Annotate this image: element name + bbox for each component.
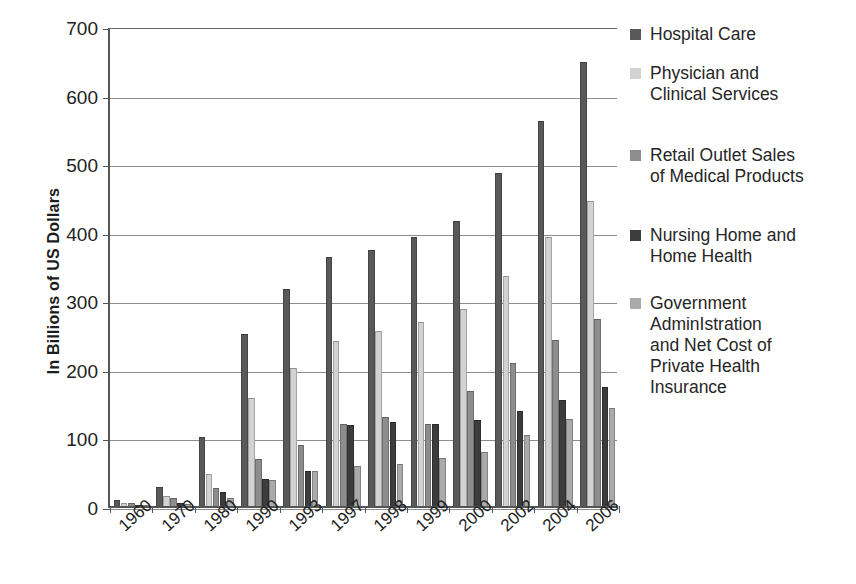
bar	[333, 341, 340, 506]
bar	[545, 237, 552, 506]
y-tick-mark	[103, 98, 110, 99]
chart-legend: Hospital CarePhysician and Clinical Serv…	[630, 24, 856, 398]
legend-item-label: Hospital Care	[650, 24, 756, 45]
legend-square-icon	[630, 29, 641, 40]
legend-square-icon	[630, 298, 641, 309]
bar	[326, 257, 333, 506]
legend-square-icon	[630, 150, 641, 161]
legend-item-label: Nursing Home and Home Health	[650, 225, 796, 267]
legend-item[interactable]: Government AdminIstration and Net Cost o…	[630, 293, 856, 398]
bar	[255, 459, 262, 506]
x-tick-mark	[152, 506, 153, 513]
x-tick-mark	[407, 506, 408, 513]
bar	[538, 121, 545, 506]
bar	[580, 62, 587, 506]
y-tick-label: 100	[40, 429, 98, 451]
y-tick-label: 600	[40, 87, 98, 109]
bar	[382, 417, 389, 506]
bar	[467, 391, 474, 506]
bar	[121, 503, 128, 506]
bar	[368, 250, 375, 506]
bar-group	[492, 29, 534, 506]
x-tick-mark	[110, 506, 111, 513]
bar	[290, 368, 297, 506]
bar-group	[534, 29, 576, 506]
bar	[453, 221, 460, 506]
y-tick-label: 700	[40, 18, 98, 40]
bar	[390, 422, 397, 506]
bar	[594, 319, 601, 506]
bar-group	[195, 29, 237, 506]
y-tick-mark	[103, 303, 110, 304]
bar-group	[365, 29, 407, 506]
bar	[114, 500, 121, 506]
bar-group	[577, 29, 619, 506]
bar-group	[280, 29, 322, 506]
bar-group	[407, 29, 449, 506]
y-tick-label: 300	[40, 292, 98, 314]
bar	[411, 237, 418, 506]
y-tick-label: 500	[40, 155, 98, 177]
bar	[432, 424, 439, 506]
bar	[163, 496, 170, 506]
x-tick-mark	[280, 506, 281, 513]
bar	[510, 363, 517, 506]
legend-item[interactable]: Retail Outlet Sales of Medical Products	[630, 145, 856, 187]
y-tick-mark	[103, 509, 110, 510]
y-tick-mark	[103, 235, 110, 236]
bar	[517, 411, 524, 506]
x-tick-mark	[449, 506, 450, 513]
bar-group	[110, 29, 152, 506]
x-tick-mark	[365, 506, 366, 513]
bar-group	[322, 29, 364, 506]
bar	[156, 487, 163, 506]
legend-item-label: Physician and Clinical Services	[650, 63, 778, 105]
bar	[347, 425, 354, 506]
x-tick-mark	[237, 506, 238, 513]
bar-chart: In Billions of US Dollars 01002003004005…	[0, 0, 856, 584]
bar	[587, 201, 594, 506]
bar	[495, 173, 502, 506]
bar	[559, 400, 566, 506]
legend-square-icon	[630, 230, 641, 241]
bar	[602, 387, 609, 506]
bars-layer	[110, 29, 617, 506]
bar	[552, 340, 559, 506]
bar-group	[449, 29, 491, 506]
bar	[609, 408, 616, 506]
y-tick-label: 200	[40, 361, 98, 383]
y-tick-mark	[103, 29, 110, 30]
bar	[206, 474, 213, 506]
legend-item-label: Retail Outlet Sales of Medical Products	[650, 145, 804, 187]
bar	[418, 322, 425, 506]
x-tick-mark	[619, 506, 620, 513]
bar	[503, 276, 510, 506]
y-tick-mark	[103, 440, 110, 441]
bar	[283, 289, 290, 506]
bar	[248, 398, 255, 506]
legend-item[interactable]: Hospital Care	[630, 24, 856, 45]
bar	[241, 334, 248, 506]
bar	[460, 309, 467, 506]
y-tick-label: 400	[40, 224, 98, 246]
bar-group	[152, 29, 194, 506]
x-tick-mark	[322, 506, 323, 513]
plot-area: 0100200300400500600700 19601970198019901…	[108, 28, 617, 508]
legend-item[interactable]: Physician and Clinical Services	[630, 63, 856, 105]
bar	[199, 437, 206, 506]
x-tick-mark	[195, 506, 196, 513]
bar	[375, 331, 382, 506]
y-tick-mark	[103, 166, 110, 167]
legend-item-label: Government AdminIstration and Net Cost o…	[650, 293, 772, 398]
x-tick-mark	[577, 506, 578, 513]
bar	[425, 424, 432, 506]
bar	[340, 424, 347, 506]
y-tick-label: 0	[40, 498, 98, 520]
bar	[298, 445, 305, 506]
y-tick-mark	[103, 372, 110, 373]
legend-square-icon	[630, 68, 641, 79]
bar	[474, 420, 481, 506]
legend-item[interactable]: Nursing Home and Home Health	[630, 225, 856, 267]
x-tick-mark	[492, 506, 493, 513]
bar	[566, 419, 573, 506]
